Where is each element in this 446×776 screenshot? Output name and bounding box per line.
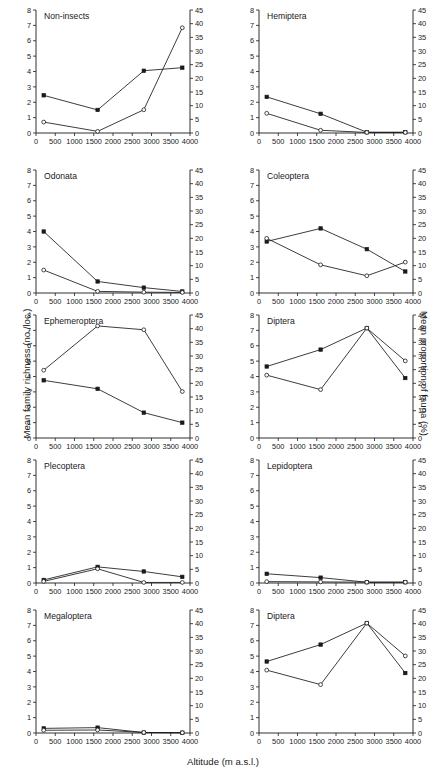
- y-left-tick-label: 3: [27, 388, 31, 397]
- x-tick-label: 3000: [366, 442, 382, 450]
- y-right-tick-label: 45: [418, 311, 426, 320]
- x-tick-label: 1000: [66, 137, 82, 145]
- x-tick-label: 500: [49, 442, 61, 450]
- x-tick-label: 1500: [86, 137, 102, 145]
- y-left-tick-label: 4: [27, 227, 31, 236]
- y-right-tick-label: 5: [195, 275, 199, 284]
- y-right-tick-label: 10: [418, 406, 426, 415]
- x-tick-label: 2500: [124, 442, 140, 450]
- data-point-richness: [181, 66, 184, 69]
- y-right-tick-label: 10: [418, 101, 426, 110]
- y-right-tick-label: 15: [418, 538, 426, 547]
- y-right-tick-label: 35: [418, 483, 426, 492]
- y-right-tick-label: 15: [195, 88, 203, 97]
- data-point-richness: [42, 379, 45, 382]
- y-left-tick-label: 5: [27, 502, 31, 511]
- data-point-proportion: [142, 290, 146, 294]
- panel-title: Diptera: [267, 611, 295, 621]
- x-tick-label: 1500: [86, 442, 102, 450]
- y-left-tick-label: 3: [250, 683, 254, 692]
- y-left-tick-label: 5: [250, 212, 254, 221]
- x-tick-label: 0: [34, 297, 38, 305]
- data-point-richness: [142, 69, 145, 72]
- data-point-proportion: [403, 260, 407, 264]
- y-left-tick-label: 7: [27, 326, 31, 335]
- data-point-proportion: [403, 359, 407, 363]
- x-axis-label: Altitude (m a.s.l.): [0, 756, 446, 767]
- series-line-richness: [267, 328, 406, 378]
- y-right-tick-label: 40: [195, 619, 203, 628]
- y-left-tick-label: 0: [250, 129, 254, 138]
- y-left-tick-label: 3: [250, 83, 254, 92]
- data-point-proportion: [42, 268, 46, 272]
- chart-panel-diptera-9: 0123456780510152025303540450500100015002…: [223, 600, 446, 745]
- y-right-tick-label: 20: [195, 524, 203, 533]
- data-point-proportion: [96, 129, 100, 133]
- x-tick-label: 3000: [366, 737, 382, 745]
- y-right-tick-label: 15: [418, 393, 426, 402]
- chart-panel-plecoptera-6: 0123456780510152025303540450500100015002…: [0, 450, 223, 595]
- x-tick-label: 3000: [366, 587, 382, 595]
- x-tick-label: 2500: [347, 442, 363, 450]
- data-point-proportion: [365, 131, 369, 135]
- y-right-tick-label: 10: [195, 701, 203, 710]
- y-right-tick-label: 10: [195, 261, 203, 270]
- y-left-tick-label: 1: [250, 713, 254, 722]
- y-right-tick-label: 40: [195, 469, 203, 478]
- y-left-tick-label: 7: [27, 471, 31, 480]
- data-point-richness: [265, 365, 268, 368]
- y-left-tick-label: 6: [250, 196, 254, 205]
- data-point-richness: [319, 643, 322, 646]
- x-tick-label: 2000: [105, 587, 121, 595]
- y-right-tick-label: 15: [195, 688, 203, 697]
- data-point-proportion: [319, 683, 323, 687]
- series-line-richness: [44, 380, 183, 422]
- x-tick-label: 4000: [182, 442, 198, 450]
- x-tick-label: 0: [257, 297, 261, 305]
- y-right-tick-label: 5: [418, 565, 422, 574]
- y-left-tick-label: 7: [250, 181, 254, 190]
- y-right-tick-label: 30: [195, 47, 203, 56]
- y-left-tick-label: 2: [27, 258, 31, 267]
- y-left-tick-label: 2: [250, 258, 254, 267]
- x-tick-label: 0: [34, 442, 38, 450]
- y-left-tick-label: 4: [250, 67, 254, 76]
- x-tick-label: 1500: [309, 297, 325, 305]
- y-right-tick-label: 20: [418, 74, 426, 83]
- y-left-tick-label: 8: [250, 311, 254, 320]
- y-left-tick-label: 8: [250, 6, 254, 15]
- x-tick-label: 2000: [328, 737, 344, 745]
- x-tick-label: 1500: [86, 737, 102, 745]
- x-tick-label: 500: [49, 137, 61, 145]
- x-tick-label: 4000: [182, 737, 198, 745]
- x-tick-label: 2000: [328, 442, 344, 450]
- y-right-tick-label: 20: [195, 379, 203, 388]
- data-point-proportion: [42, 120, 46, 124]
- y-right-tick-label: 25: [195, 660, 203, 669]
- y-left-tick-label: 1: [250, 113, 254, 122]
- y-right-tick-label: 15: [418, 88, 426, 97]
- y-left-tick-label: 1: [250, 273, 254, 282]
- series-line-proportion: [267, 328, 406, 390]
- x-tick-label: 500: [272, 587, 284, 595]
- y-left-tick-label: 2: [27, 403, 31, 412]
- x-tick-label: 3500: [386, 737, 402, 745]
- data-point-richness: [181, 421, 184, 424]
- chart-panel-lepidoptera-7: 0123456780510152025303540450500100015002…: [223, 450, 446, 595]
- x-tick-label: 1000: [289, 297, 305, 305]
- y-left-tick-label: 8: [250, 606, 254, 615]
- data-point-proportion: [319, 263, 323, 267]
- y-left-tick-label: 5: [250, 357, 254, 366]
- y-right-tick-label: 5: [195, 565, 199, 574]
- y-right-tick-label: 30: [195, 207, 203, 216]
- y-right-tick-label: 25: [418, 220, 426, 229]
- y-left-tick-label: 0: [250, 434, 254, 443]
- y-left-tick-label: 8: [27, 311, 31, 320]
- data-point-richness: [319, 348, 322, 351]
- y-left-tick-label: 7: [27, 181, 31, 190]
- y-left-tick-label: 7: [27, 21, 31, 30]
- y-left-tick-label: 7: [250, 326, 254, 335]
- series-line-proportion: [267, 113, 406, 132]
- panel-title: Hemiptera: [267, 11, 307, 21]
- y-right-tick-label: 5: [418, 715, 422, 724]
